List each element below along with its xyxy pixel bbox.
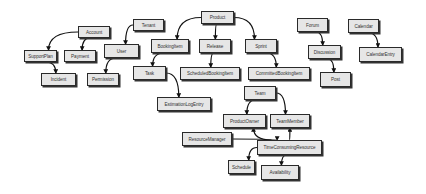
node-timeconsumingresource: TimeConsumingResource xyxy=(257,140,322,155)
node-productowner: ProductOwner xyxy=(223,114,266,128)
node-incident: Incident xyxy=(41,73,76,86)
node-label: ProductOwner xyxy=(230,119,259,124)
node-task: Task xyxy=(133,66,166,80)
edge-account-to-supportplan xyxy=(49,32,78,50)
node-label: Forum xyxy=(306,23,319,28)
node-resourcemanager: ResourceManager xyxy=(182,132,232,146)
node-label: Release xyxy=(207,44,224,49)
node-label: Task xyxy=(145,71,154,76)
node-label: Payment xyxy=(71,54,89,59)
node-forum: Forum xyxy=(297,18,328,32)
edge-team-to-teammember xyxy=(276,93,286,114)
edge-team-to-productowner xyxy=(247,100,256,114)
node-teammember: TeamMember xyxy=(270,114,310,128)
diagram-canvas: Account SupportPlan Payment Incident Ten… xyxy=(0,0,426,194)
node-calendarentry: CalendarEntry xyxy=(359,47,402,62)
node-sprint: Sprint xyxy=(245,39,277,53)
node-label: Discussion xyxy=(314,50,336,55)
node-label: Calendar xyxy=(354,24,372,29)
node-discussion: Discussion xyxy=(308,45,341,59)
edge-product-to-bookingitem xyxy=(177,18,201,40)
node-account: Account xyxy=(78,26,110,38)
node-label: ScheduledBookingItem xyxy=(187,71,233,76)
edge-sprint-to-committedbookingitem xyxy=(266,53,276,67)
node-user: User xyxy=(104,44,139,58)
edge-bookingitem-to-task xyxy=(153,53,164,66)
node-label: Post xyxy=(331,77,340,82)
node-label: SupportPlan xyxy=(28,54,53,59)
node-committedbookingitem: CommittedBookingItem xyxy=(248,67,310,80)
node-label: CommittedBookingItem xyxy=(256,71,303,76)
node-label: BookingItem xyxy=(158,44,183,49)
edge-tenant-to-user xyxy=(126,25,133,44)
node-label: Tenant xyxy=(142,23,156,28)
edge-account-to-payment xyxy=(82,38,90,50)
edge-product-to-sprint xyxy=(234,18,254,40)
node-post: Post xyxy=(320,72,351,87)
edge-calendar-to-calendarentry xyxy=(369,33,378,47)
node-team: Team xyxy=(244,86,276,100)
node-tenant: Tenant xyxy=(133,19,164,31)
node-permission: Permission xyxy=(87,73,119,86)
edge-timeconsumingresource-to-availability xyxy=(281,155,286,165)
edge-user-to-permission xyxy=(106,58,116,73)
node-label: ResourceManager xyxy=(188,137,225,142)
node-product: Product xyxy=(201,11,234,24)
node-estimationlogentry: EstimationLogEntry xyxy=(157,97,211,111)
node-label: Sprint xyxy=(255,44,267,49)
node-bookingitem: BookingItem xyxy=(151,39,189,53)
edge-timeconsumingresource-to-schedule xyxy=(249,148,257,161)
edge-release-to-scheduledbookingitem xyxy=(211,53,214,67)
node-label: CalendarEntry xyxy=(366,52,395,57)
node-label: Account xyxy=(86,30,102,35)
node-label: EstimationLogEntry xyxy=(165,102,204,107)
node-supportplan: SupportPlan xyxy=(24,50,57,62)
node-label: Incident xyxy=(51,77,67,82)
edge-discussion-to-post xyxy=(328,59,334,72)
edge-forum-to-discussion xyxy=(316,32,323,45)
node-label: Permission xyxy=(92,77,114,82)
node-availability: Availability xyxy=(261,165,299,180)
node-schedule: Schedule xyxy=(228,160,255,174)
node-label: TeamMember xyxy=(276,119,304,124)
node-label: Team xyxy=(254,91,265,96)
node-label: TimeConsumingResource xyxy=(264,145,316,150)
node-calendar: Calendar xyxy=(348,19,379,33)
node-label: Product xyxy=(210,15,225,20)
node-label: Schedule xyxy=(232,165,251,170)
edge-supportplan-to-incident xyxy=(46,62,56,73)
node-payment: Payment xyxy=(64,50,96,62)
node-scheduledbookingitem: ScheduledBookingItem xyxy=(180,67,240,80)
node-release: Release xyxy=(199,39,231,53)
node-label: Availability xyxy=(269,170,290,175)
edge-product-to-release xyxy=(215,24,216,39)
edge-timeconsumingresource-to-productowner xyxy=(254,128,272,140)
edge-task-to-estimationlogentry xyxy=(166,73,179,97)
node-label: User xyxy=(117,49,127,54)
